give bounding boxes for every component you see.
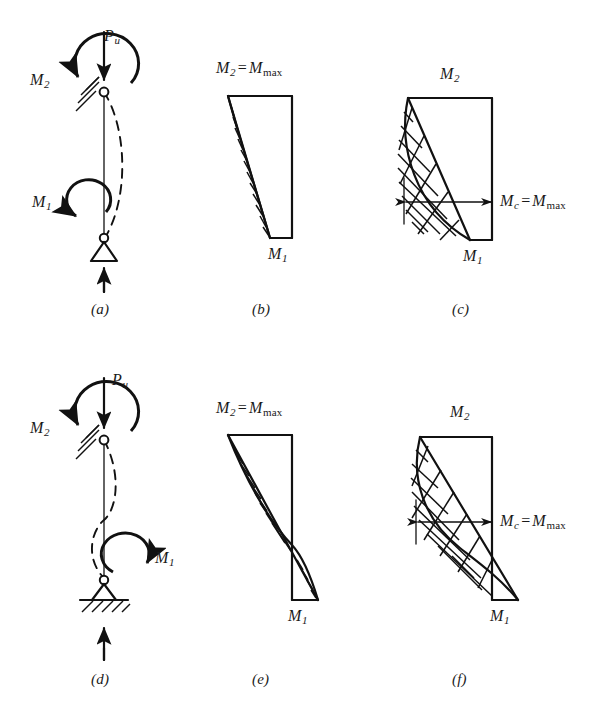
panel-e-bottom-subscript: 1 [302, 614, 308, 626]
panel-b-bottom-label: M1 [268, 246, 288, 264]
panel-f-mid-label: Mc=Mmax [500, 513, 566, 531]
panel-f-top-symbol: M [450, 403, 464, 420]
panel-f-max-symbol: M [532, 512, 546, 529]
panel-c-top-symbol: M [440, 65, 454, 82]
panel-e-drawing [228, 435, 318, 600]
panel-c-max-symbol: M [532, 192, 546, 209]
panel-d-caption: (d) [91, 672, 109, 687]
panel-e-bottom-label: M1 [288, 608, 308, 626]
panel-f-top-subscript: 2 [464, 410, 470, 422]
panel-c-hatching [398, 108, 459, 240]
panel-f-equals-sign: = [519, 512, 532, 529]
panel-d-ground-hatching [82, 601, 130, 612]
panel-b-secondary-moment-curve [228, 96, 270, 238]
panel-c-mid-symbol: M [500, 192, 514, 209]
panel-e-caption: (e) [252, 672, 269, 687]
panel-a-moment-top-label: M2 [30, 72, 50, 90]
panel-b-max-subscript: max [263, 66, 283, 78]
panel-c-caption: (c) [452, 302, 469, 317]
panel-a-moment-top-subscript: 2 [44, 78, 50, 90]
panel-b-top-subscript: 2 [230, 66, 236, 78]
panel-f-bottom-subscript: 1 [504, 614, 510, 626]
panel-d-moment-top-subscript: 2 [44, 426, 50, 438]
panel-b-caption: (b) [252, 302, 270, 317]
panel-b-top-symbol: M [216, 59, 230, 76]
panel-a-axial-load-label: Pu [104, 28, 120, 46]
panel-e-bottom-symbol: M [288, 607, 302, 624]
panel-c-mid-label: Mc=Mmax [500, 193, 566, 211]
panel-e-top-symbol: M [216, 399, 230, 416]
panel-e-max-subscript: max [263, 406, 283, 418]
panel-a-top-support-hatching [76, 77, 99, 111]
panel-a-axial-load-symbol: P [104, 27, 114, 44]
panel-d-moment-bottom-label: M1 [155, 550, 175, 568]
panel-d-axial-load-symbol: P [112, 371, 122, 388]
panel-f-hatching [411, 446, 493, 596]
panel-c-drawing [398, 98, 492, 240]
panel-d-top-moment-arc [75, 382, 139, 431]
panel-c-equals-sign: = [519, 192, 532, 209]
panel-c-top-label: M2 [440, 66, 460, 84]
panel-f-bottom-symbol: M [490, 607, 504, 624]
panel-a-deflected-shape [104, 92, 122, 236]
panel-d-moment-top-symbol: M [30, 419, 44, 436]
panel-f-bottom-label: M1 [490, 608, 510, 626]
panel-b-bottom-subscript: 1 [282, 252, 288, 264]
panel-c-bottom-label: M1 [463, 248, 483, 266]
panel-a-axial-load-subscript: u [114, 34, 120, 46]
panel-d-drawing [75, 378, 150, 660]
panel-b-equals-sign: = [236, 59, 249, 76]
panel-a-triangle-support [91, 242, 117, 261]
panel-d-top-support-hatching [76, 425, 99, 459]
panel-b-bottom-symbol: M [268, 245, 282, 262]
panel-a-moment-bottom-symbol: M [32, 193, 46, 210]
panel-c-bottom-subscript: 1 [477, 254, 483, 266]
panel-c-max-subscript: max [546, 199, 566, 211]
panel-a-caption: (a) [91, 302, 109, 317]
panel-c-primary-chord [408, 98, 470, 240]
panel-e-equals-sign: = [236, 399, 249, 416]
figure-container: Pu M2 M1 (a) M2=Mmax M1 (b) M2 M1 Mc=Mma… [0, 0, 606, 703]
panel-d-axial-load-subscript: u [122, 378, 128, 390]
panel-f-max-subscript: max [546, 519, 566, 531]
panel-a-top-pin [100, 88, 109, 97]
panel-a-moment-bottom-label: M1 [32, 194, 52, 212]
panel-d-axial-load-label: Pu [112, 372, 128, 390]
panel-d-bottom-moment-arc [101, 533, 149, 572]
panel-e-top-subscript: 2 [230, 406, 236, 418]
panel-d-triangle-support [92, 584, 116, 600]
panel-d-moment-bottom-symbol: M [155, 549, 169, 566]
panel-a-moment-bottom-subscript: 1 [46, 200, 52, 212]
panel-b-top-label: M2=Mmax [216, 60, 283, 78]
panel-d-moment-bottom-subscript: 1 [169, 556, 175, 568]
panel-b-drawing [228, 96, 292, 238]
panel-e-top-label: M2=Mmax [216, 400, 283, 418]
panel-f-caption: (f) [452, 672, 467, 687]
panel-f-top-label: M2 [450, 404, 470, 422]
panel-a-drawing [67, 32, 139, 292]
figure-drawing [0, 0, 606, 703]
panel-b-max-symbol: M [249, 59, 263, 76]
panel-d-moment-top-label: M2 [30, 420, 50, 438]
panel-e-max-symbol: M [249, 399, 263, 416]
panel-f-mid-symbol: M [500, 512, 514, 529]
panel-a-moment-top-symbol: M [30, 71, 44, 88]
panel-c-bottom-symbol: M [463, 247, 477, 264]
panel-c-top-subscript: 2 [454, 72, 460, 84]
panel-d-top-pin [100, 436, 109, 445]
